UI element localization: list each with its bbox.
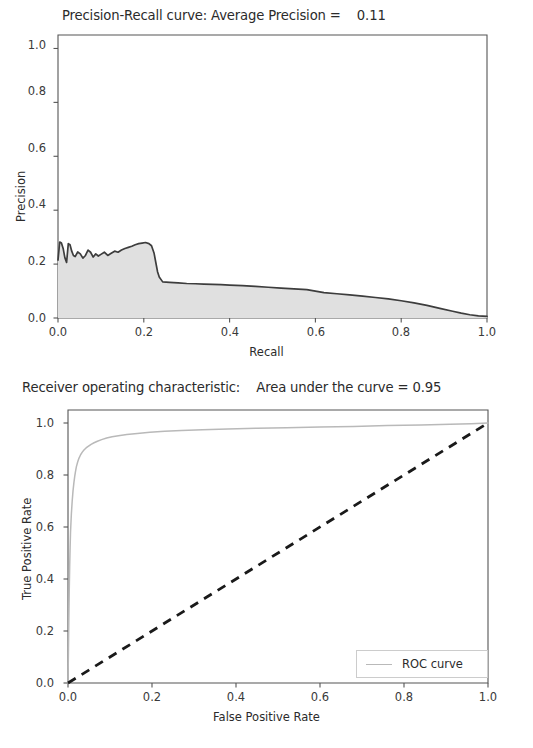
plot-frame bbox=[68, 410, 488, 683]
roc-chart: Receiver operating characteristic: Area … bbox=[0, 372, 533, 748]
precision-recall-chart: Precision-Recall curve: Average Precisio… bbox=[0, 0, 533, 372]
roc-plot-area bbox=[0, 372, 533, 748]
roc-legend[interactable]: ROC curve bbox=[356, 650, 488, 678]
roc-legend-line-swatch bbox=[366, 664, 392, 665]
figure-canvas: Precision-Recall curve: Average Precisio… bbox=[0, 0, 533, 748]
series-chance-diagonal bbox=[68, 423, 488, 683]
pr-plot-area bbox=[0, 0, 533, 372]
pr-area-fill bbox=[58, 242, 487, 318]
roc-legend-label: ROC curve bbox=[402, 657, 463, 671]
